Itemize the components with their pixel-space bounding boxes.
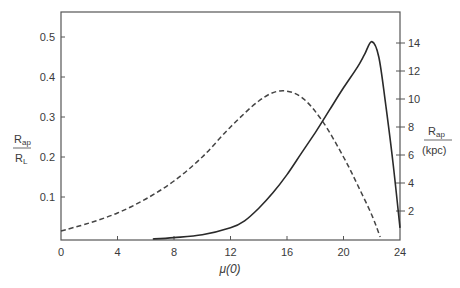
series-dashed-ratio — [61, 91, 380, 237]
x-tick-label: 24 — [394, 246, 406, 258]
left-y-tick-label: 0.4 — [40, 71, 55, 83]
right-y-tick-label: 10 — [408, 93, 420, 105]
right-y-tick-label: 8 — [408, 121, 414, 133]
right-y-tick-label: 14 — [408, 37, 420, 49]
chart: 04812162024 0.10.20.30.40.5 2468101214 μ… — [0, 0, 460, 288]
left-y-axis-label: Rap RL — [13, 133, 31, 166]
series-lines — [61, 42, 400, 239]
right-y-tick-label: 6 — [408, 149, 414, 161]
x-tick-label: 8 — [171, 246, 177, 258]
left-y-tick-label: 0.3 — [40, 111, 55, 123]
x-axis-label: μ(0) — [218, 262, 240, 276]
left-y-tick-label: 0.2 — [40, 151, 55, 163]
left-ylabel-numerator: Rap — [14, 133, 31, 147]
x-tick-label: 20 — [337, 246, 349, 258]
x-tick-label: 4 — [114, 246, 120, 258]
right-y-tick-label: 12 — [408, 65, 420, 77]
x-tick-label: 16 — [281, 246, 293, 258]
right-y-tick-label: 2 — [408, 205, 414, 217]
x-tick-label: 0 — [58, 246, 64, 258]
left-y-tick-label: 0.5 — [40, 31, 55, 43]
right-ylabel-numerator: Rap — [428, 125, 445, 139]
left-y-tick-label: 0.1 — [40, 191, 55, 203]
right-ylabel-denominator: (kpc) — [422, 144, 446, 156]
x-axis-ticks: 04812162024 — [58, 236, 406, 258]
right-y-tick-label: 4 — [408, 177, 414, 189]
x-tick-label: 12 — [224, 246, 236, 258]
series-solid-kpc — [153, 42, 400, 239]
right-y-axis-label: Rap (kpc) — [422, 125, 452, 156]
left-ylabel-denominator: RL — [15, 152, 28, 166]
